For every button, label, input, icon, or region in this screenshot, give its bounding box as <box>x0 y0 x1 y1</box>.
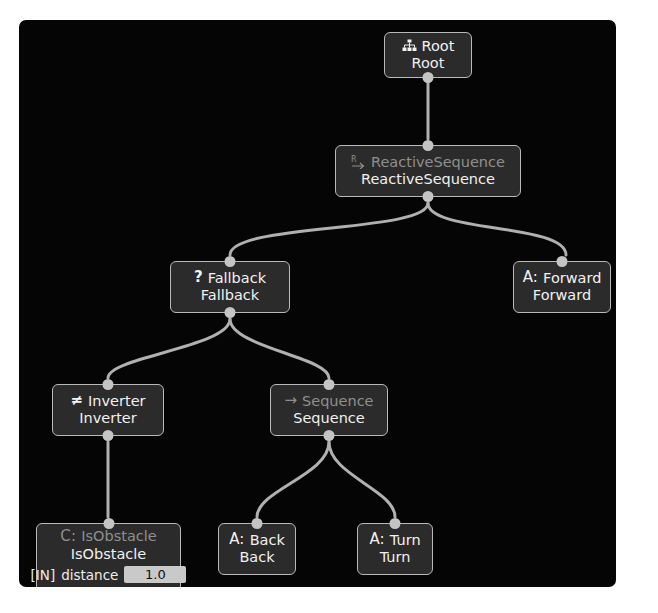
node-turn[interactable]: A: Turn Turn <box>357 523 433 575</box>
node-forward-type-label: Forward <box>543 270 601 286</box>
node-reactivesequence-type-label: ReactiveSequence <box>371 154 505 170</box>
node-turn-instance-name: Turn <box>380 549 411 566</box>
node-fallback-instance-name: Fallback <box>201 287 259 304</box>
behavior-tree-editor: Root Root R ReactiveSequence ReactiveSeq… <box>0 0 658 613</box>
node-inverter-type-label: Inverter <box>88 393 146 409</box>
node-isobstacle-port-row: [IN] distance 1.0 <box>31 566 187 583</box>
node-forward[interactable]: A: Forward Forward <box>513 261 611 313</box>
node-isobstacle-header: C: IsObstacle <box>60 528 156 545</box>
node-sequence-input-port[interactable] <box>324 379 335 390</box>
node-root-output-port[interactable] <box>423 72 434 83</box>
node-reactivesequence[interactable]: R ReactiveSequence ReactiveSequence <box>335 145 521 197</box>
node-fallback-header: ? Fallback <box>194 270 266 286</box>
action-icon: A: <box>523 269 538 286</box>
arrow-right-icon: → <box>284 393 297 408</box>
node-sequence-instance-name: Sequence <box>293 410 365 427</box>
not-equal-icon: ≠ <box>70 393 83 408</box>
node-turn-type-label: Turn <box>390 532 421 548</box>
node-reactivesequence-instance-name: ReactiveSequence <box>361 171 495 188</box>
node-isobstacle-instance-name: IsObstacle <box>71 546 147 563</box>
question-mark-icon: ? <box>194 270 203 285</box>
port-direction-label: [IN] <box>31 567 56 583</box>
graph-canvas[interactable]: Root Root R ReactiveSequence ReactiveSeq… <box>19 20 616 587</box>
node-sequence-type-label: Sequence <box>302 393 374 409</box>
node-forward-input-port[interactable] <box>557 256 568 267</box>
node-back-header: A: Back <box>229 531 285 548</box>
node-root-type-label: Root <box>422 38 455 54</box>
port-value-input[interactable]: 1.0 <box>124 566 186 583</box>
node-fallback-input-port[interactable] <box>225 256 236 267</box>
edge-sequence-turn <box>329 442 395 517</box>
svg-text:R: R <box>351 155 357 164</box>
node-fallback-type-label: Fallback <box>208 270 266 286</box>
edge-fallback-sequence <box>230 319 329 378</box>
node-root[interactable]: Root Root <box>384 32 472 78</box>
edge-fallback-inverter <box>108 319 230 378</box>
edge-reactivesequence-fallback <box>230 203 428 255</box>
node-forward-header: A: Forward <box>523 269 602 286</box>
node-root-instance-name: Root <box>412 55 445 72</box>
node-turn-input-port[interactable] <box>390 518 401 529</box>
hierarchy-icon <box>402 39 417 52</box>
node-inverter-header: ≠ Inverter <box>70 393 145 409</box>
node-fallback[interactable]: ? Fallback Fallback <box>170 261 290 313</box>
node-inverter-instance-name: Inverter <box>79 410 137 427</box>
node-inverter-output-port[interactable] <box>103 430 114 441</box>
node-isobstacle-type-label: IsObstacle <box>81 528 157 544</box>
reactive-arrow-icon: R <box>351 155 366 169</box>
node-fallback-output-port[interactable] <box>225 307 236 318</box>
node-root-header: Root <box>402 38 455 54</box>
node-inverter-input-port[interactable] <box>103 379 114 390</box>
node-turn-header: A: Turn <box>369 531 420 548</box>
edge-reactivesequence-forward <box>428 203 566 255</box>
node-sequence-header: → Sequence <box>284 393 373 409</box>
node-back-instance-name: Back <box>239 549 274 566</box>
port-name-label: distance <box>61 567 118 583</box>
node-reactivesequence-input-port[interactable] <box>423 140 434 151</box>
node-sequence-output-port[interactable] <box>324 430 335 441</box>
action-icon: A: <box>369 531 384 548</box>
node-isobstacle-input-port[interactable] <box>103 518 114 529</box>
condition-icon: C: <box>60 528 76 545</box>
node-back-type-label: Back <box>250 532 285 548</box>
node-back-input-port[interactable] <box>252 518 263 529</box>
edge-sequence-back <box>257 442 329 517</box>
node-forward-instance-name: Forward <box>533 287 591 304</box>
node-back[interactable]: A: Back Back <box>218 523 296 575</box>
node-reactivesequence-output-port[interactable] <box>423 191 434 202</box>
node-inverter[interactable]: ≠ Inverter Inverter <box>52 384 164 436</box>
node-isobstacle[interactable]: C: IsObstacle IsObstacle [IN] distance 1… <box>36 523 181 587</box>
action-icon: A: <box>229 531 244 548</box>
node-reactivesequence-header: R ReactiveSequence <box>351 154 505 170</box>
node-sequence[interactable]: → Sequence Sequence <box>270 384 388 436</box>
